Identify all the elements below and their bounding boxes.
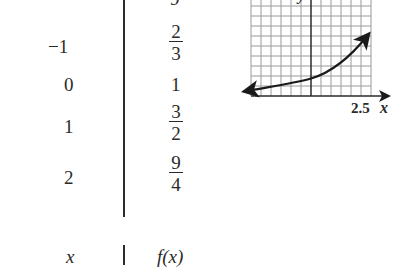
x-tick-label: 2.5 [351, 100, 370, 117]
x-axis-label: x [380, 99, 388, 117]
y-axis-label: y [298, 0, 305, 5]
